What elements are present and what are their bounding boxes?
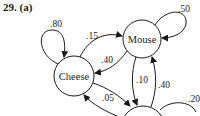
edge-mouse-third: .10 [132, 57, 148, 105]
transition-diagram: Mouse Cheese .80 .15 .50 .40 .10 .40 .05 [0, 0, 200, 116]
edge-label-cheese-cheese: .80 [50, 19, 62, 29]
node-mouse-label: Mouse [128, 34, 157, 45]
node-cheese-label: Cheese [59, 71, 90, 82]
edge-cheese-third: .05 [93, 83, 130, 106]
edge-mouse-cheese: .40 [95, 51, 127, 73]
edge-label-third-mouse: .40 [158, 80, 170, 90]
node-mouse: Mouse [123, 20, 161, 58]
edge-third-mouse: .40 [151, 57, 170, 107]
edge-label-mouse-third: .10 [136, 75, 148, 85]
edge-label-cheese-third: .05 [102, 93, 114, 103]
edge-cheese-mouse: .15 [80, 31, 122, 57]
edge-cheese-cheese: .80 [41, 19, 64, 64]
node-third [121, 106, 165, 116]
node-cheese: Cheese [54, 56, 94, 96]
edge-label-mouse-cheese: .40 [101, 55, 113, 65]
edge-label-mouse-mouse: .50 [178, 4, 190, 14]
edge-third-third: .20 [160, 94, 200, 112]
edge-label-third-third: .20 [188, 94, 200, 104]
edge-label-cheese-mouse: .15 [86, 31, 98, 41]
